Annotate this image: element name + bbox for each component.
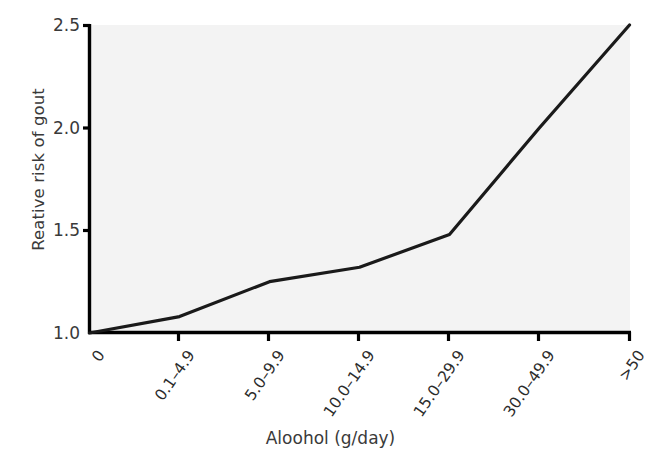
chart-figure: Reative risk of gout 2.5 2.0 1.5 1.0 00.… (0, 0, 661, 470)
x-axis-tick-labels: 00.1–4.95.0–9.910.0–14.915.0–29.930.0–49… (0, 0, 661, 470)
x-axis-title: Aloohol (g/day) (0, 428, 661, 448)
